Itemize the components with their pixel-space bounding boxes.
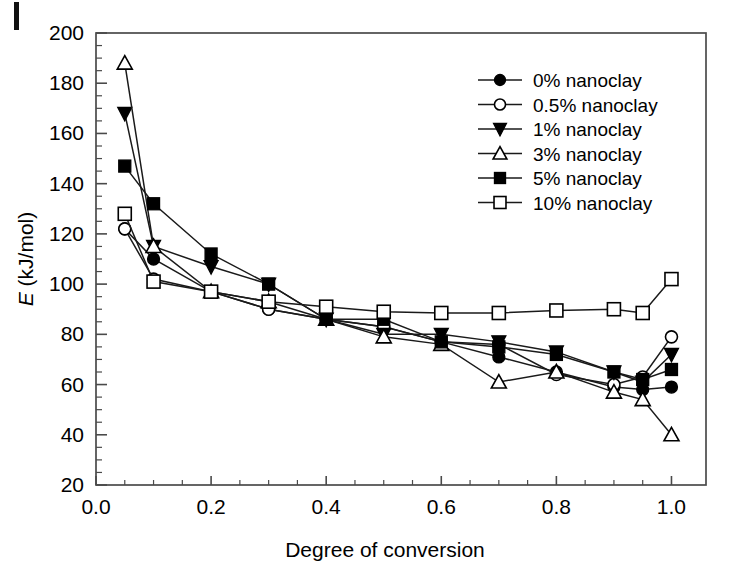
y-tick-label: 180 — [49, 71, 84, 94]
legend-item-5-nanoclay[interactable]: 5% nanoclay — [478, 168, 642, 189]
data-point-filled-square — [637, 374, 649, 386]
data-point-filled-square — [435, 336, 447, 348]
data-point-open-square — [262, 295, 275, 308]
data-point-filled-square — [148, 198, 160, 210]
legend-label: 1% nanoclay — [533, 119, 642, 140]
legend-item-1-nanoclay[interactable]: 1% nanoclay — [478, 119, 642, 140]
legend-label: 5% nanoclay — [533, 168, 642, 189]
data-point-open-circle — [665, 331, 677, 343]
energy-vs-conversion-chart: 0.00.20.40.60.81.0 204060801001201401601… — [0, 0, 729, 587]
y-tick-label: 120 — [49, 222, 84, 245]
data-point-open-square — [377, 305, 390, 318]
page-edge-artifact — [14, 2, 19, 30]
x-tick-label: 1.0 — [657, 495, 686, 518]
x-axis-ticks — [96, 476, 671, 485]
x-tick-label: 0.2 — [196, 495, 225, 518]
data-point-open-square — [494, 197, 506, 209]
data-point-filled-circle — [665, 381, 677, 393]
data-point-filled-square — [665, 363, 677, 375]
y-tick-label: 140 — [49, 172, 84, 195]
y-tick-label: 200 — [49, 21, 84, 44]
data-point-filled-square — [550, 348, 562, 360]
x-axis-tick-labels: 0.00.20.40.60.81.0 — [81, 495, 686, 518]
data-point-open-circle — [494, 99, 505, 110]
data-point-open-square — [147, 275, 160, 288]
x-tick-label: 0.0 — [81, 495, 110, 518]
data-point-open-square — [636, 306, 649, 319]
legend-label: 0% nanoclay — [533, 70, 642, 91]
data-point-filled-square — [494, 172, 505, 183]
figure-container: 0.00.20.40.60.81.0 204060801001201401601… — [0, 0, 729, 587]
legend-label: 10% nanoclay — [533, 193, 653, 214]
data-point-open-square — [492, 306, 505, 319]
legend-item-0-nanoclay[interactable]: 0% nanoclay — [478, 70, 642, 91]
data-point-filled-square — [493, 341, 505, 353]
y-tick-label: 160 — [49, 121, 84, 144]
legend: 0% nanoclay0.5% nanoclay1% nanoclay3% na… — [478, 70, 658, 214]
data-point-open-square — [205, 285, 218, 298]
data-point-filled-square — [263, 278, 275, 290]
legend-item-0.5-nanoclay[interactable]: 0.5% nanoclay — [478, 95, 658, 116]
data-point-filled-square — [119, 160, 131, 172]
y-tick-label: 60 — [61, 373, 84, 396]
legend-label: 3% nanoclay — [533, 144, 642, 165]
data-point-open-square — [607, 303, 620, 316]
data-point-filled-square — [608, 366, 620, 378]
data-point-filled-square — [205, 248, 217, 260]
y-tick-label: 100 — [49, 272, 84, 295]
data-point-open-square — [550, 304, 563, 317]
data-point-open-up-triangle — [117, 56, 132, 69]
data-point-filled-down-triangle — [118, 107, 132, 121]
y-tick-label: 40 — [61, 423, 84, 446]
legend-item-3-nanoclay[interactable]: 3% nanoclay — [478, 144, 642, 165]
data-point-open-square — [118, 207, 131, 220]
data-point-open-square — [665, 273, 678, 286]
legend-item-10-nanoclay[interactable]: 10% nanoclay — [478, 193, 653, 214]
data-point-filled-square — [320, 313, 332, 325]
data-point-open-square — [435, 306, 448, 319]
x-tick-label: 0.8 — [542, 495, 571, 518]
legend-label: 0.5% nanoclay — [533, 95, 658, 116]
y-tick-label: 80 — [61, 322, 84, 345]
y-axis-title: E (kJ/mol) — [14, 212, 37, 307]
y-axis-ticks — [96, 33, 107, 485]
y-axis-tick-labels: 20406080100120140160180200 — [49, 21, 84, 496]
y-tick-label: 20 — [61, 473, 84, 496]
x-axis-title: Degree of conversion — [285, 538, 485, 561]
x-tick-label: 0.6 — [427, 495, 456, 518]
data-point-open-square — [320, 300, 333, 313]
data-point-filled-circle — [494, 74, 505, 85]
x-tick-label: 0.4 — [312, 495, 342, 518]
